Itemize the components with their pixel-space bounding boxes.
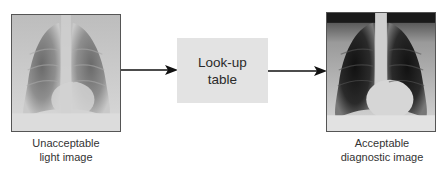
caption-line: light image (0, 150, 132, 164)
input-image-caption: Unacceptable light image (0, 136, 132, 164)
caption-line: Unacceptable (0, 136, 132, 150)
caption-line: diagnostic image (316, 150, 448, 164)
box-label-line: Look-up (198, 54, 247, 71)
look-up-table-box: Look-up table (177, 38, 268, 103)
acceptable-diagnostic-xray-image (326, 12, 436, 132)
output-image-caption: Acceptable diagnostic image (316, 136, 448, 164)
box-label-line: table (198, 71, 247, 88)
chest-xray-light-icon (12, 15, 120, 131)
caption-line: Acceptable (316, 136, 448, 150)
unacceptable-light-xray-image (11, 14, 121, 132)
arrow-right-icon (268, 65, 327, 77)
chest-xray-diagnostic-icon (327, 13, 435, 131)
arrow-right-icon (121, 64, 178, 76)
